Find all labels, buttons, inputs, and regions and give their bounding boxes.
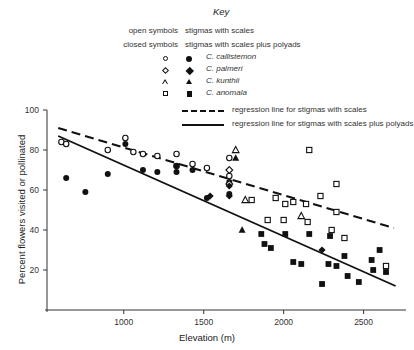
square-open-icon	[163, 91, 168, 96]
circle-open-icon	[163, 56, 168, 61]
data-point	[63, 175, 69, 181]
x-tick-2000: 2000	[264, 317, 304, 327]
data-point	[345, 273, 351, 279]
triangle-open-icon	[162, 79, 168, 84]
data-point	[232, 146, 239, 152]
data-point	[204, 165, 209, 170]
data-point	[265, 217, 270, 222]
y-tick-40: 40	[15, 225, 39, 235]
diamond-closed-icon	[187, 68, 193, 74]
data-point	[306, 231, 312, 237]
key-desc-closed: stigmas with scales plus polyads	[185, 40, 301, 49]
data-point	[155, 153, 160, 158]
data-point	[334, 181, 339, 186]
data-point	[249, 197, 254, 202]
data-point	[63, 141, 68, 146]
key-desc-open: stigmas with scales	[185, 26, 254, 35]
data-point	[283, 201, 288, 206]
data-point	[242, 196, 249, 202]
series-5	[232, 154, 245, 233]
data-point	[262, 241, 268, 247]
x-tick-2500: 2500	[344, 317, 384, 327]
data-point	[273, 195, 278, 200]
triangle-closed-icon	[186, 79, 192, 84]
y-tick-20: 20	[15, 265, 39, 275]
data-point	[140, 167, 146, 173]
data-point	[82, 189, 88, 195]
data-point	[369, 257, 375, 263]
data-point	[319, 281, 325, 287]
key-lead-closed: closed symbols	[88, 40, 178, 49]
data-point	[123, 135, 128, 140]
data-point	[131, 149, 136, 154]
species-label-anomala: C. anomala	[206, 88, 247, 97]
species-label-kunthii: C. kunthii	[206, 76, 239, 85]
data-point	[290, 259, 296, 265]
figure: Key open symbols stigmas with scales clo…	[0, 0, 414, 350]
scatter-plot: Percent flowers visited or pollinated El…	[0, 100, 414, 350]
data-point	[342, 235, 347, 240]
data-point	[298, 261, 304, 267]
data-point	[174, 151, 179, 156]
data-point	[227, 155, 232, 160]
species-label-callistemon: C. callistemon	[206, 52, 256, 61]
y-tick-80: 80	[15, 145, 39, 155]
data-point	[303, 201, 308, 206]
x-tick-1500: 1500	[184, 317, 224, 327]
data-point	[326, 261, 332, 267]
data-point	[174, 163, 180, 169]
data-point	[140, 151, 145, 156]
data-point	[291, 199, 296, 204]
data-point	[282, 231, 288, 237]
circle-closed-icon	[186, 56, 192, 62]
data-point	[190, 161, 195, 166]
square-closed-icon	[187, 91, 193, 97]
data-point	[383, 263, 388, 268]
data-point	[105, 171, 111, 177]
data-point	[298, 212, 305, 218]
data-point	[370, 267, 376, 273]
data-point	[226, 167, 233, 174]
species-label-palmeri: C. palmeri	[206, 64, 242, 73]
data-point	[105, 147, 110, 152]
regression-line-dashed	[58, 128, 394, 228]
key-title: Key	[213, 6, 229, 17]
series-4	[232, 146, 304, 218]
data-point	[239, 226, 246, 233]
data-point	[268, 245, 274, 251]
key-lead-open: open symbols	[88, 26, 178, 35]
data-point	[318, 193, 323, 198]
data-point	[383, 269, 389, 275]
data-point	[327, 233, 333, 239]
data-point	[305, 219, 310, 224]
data-point	[342, 253, 348, 259]
data-point	[377, 247, 383, 253]
data-point	[329, 227, 334, 232]
data-point	[232, 154, 239, 161]
chart-key: Key open symbols stigmas with scales clo…	[0, 0, 414, 104]
plot-canvas	[0, 100, 414, 350]
data-point	[258, 231, 264, 237]
x-tick-1000: 1000	[104, 317, 144, 327]
data-point	[334, 263, 340, 269]
diamond-open-icon	[163, 68, 168, 73]
y-tick-60: 60	[15, 185, 39, 195]
data-point	[154, 169, 160, 175]
data-point	[334, 209, 339, 214]
data-point	[356, 279, 362, 285]
data-point	[174, 169, 180, 175]
data-point	[190, 167, 196, 173]
data-point	[307, 147, 312, 152]
y-tick-100: 100	[15, 105, 39, 115]
data-point	[281, 217, 286, 222]
data-point	[122, 141, 128, 147]
series-7	[258, 231, 389, 287]
